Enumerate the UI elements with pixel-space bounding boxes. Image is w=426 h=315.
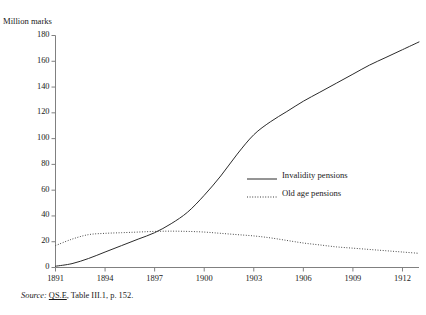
- legend-swatch-dotted-line-icon: [247, 188, 277, 198]
- plot-area: 020406080100120140160180 189118941897190…: [0, 0, 426, 290]
- legend-item-old-age: Old age pensions: [247, 184, 407, 202]
- legend-item-invalidity: Invalidity pensions: [247, 166, 407, 184]
- legend-label-invalidity: Invalidity pensions: [282, 170, 348, 180]
- source-label: Source:: [21, 291, 47, 300]
- legend-swatch-solid-line-icon: [247, 170, 277, 180]
- y-axis-tick-label: 100: [24, 133, 50, 142]
- pension-line-chart-figure: Invalidity and old age pensions Million …: [0, 0, 426, 315]
- y-axis-tick-label: 180: [24, 30, 50, 39]
- y-axis-tick-label: 40: [24, 210, 50, 219]
- y-axis-tick-label: 140: [24, 82, 50, 91]
- chart-canvas: [0, 0, 426, 290]
- y-axis-tick-label: 160: [24, 56, 50, 65]
- x-axis-tick-label: 1891: [36, 274, 76, 283]
- y-axis-tick-label: 80: [24, 159, 50, 168]
- x-axis-tick-label: 1897: [135, 274, 175, 283]
- source-note: Source: QS.E, Table III.1, p. 152.: [21, 291, 133, 300]
- y-axis-tick-label: 120: [24, 107, 50, 116]
- y-axis-tick-label: 60: [24, 185, 50, 194]
- series-line-invalidity: [56, 42, 420, 266]
- source-reference: QS.E: [49, 291, 67, 300]
- x-axis-tick-label: 1903: [234, 274, 274, 283]
- y-axis-tick-label: 20: [24, 236, 50, 245]
- y-axis-tick-label: 0: [24, 262, 50, 271]
- x-axis-tick-label: 1909: [333, 274, 373, 283]
- x-axis-tick-label: 1906: [283, 274, 323, 283]
- source-rest: , Table III.1, p. 152.: [67, 291, 133, 300]
- x-axis-tick-label: 1894: [85, 274, 125, 283]
- x-axis-tick-label: 1900: [184, 274, 224, 283]
- legend-label-old-age: Old age pensions: [282, 188, 341, 198]
- x-axis-tick-label: 1912: [382, 274, 422, 283]
- chart-legend: Invalidity pensions Old age pensions: [247, 166, 407, 202]
